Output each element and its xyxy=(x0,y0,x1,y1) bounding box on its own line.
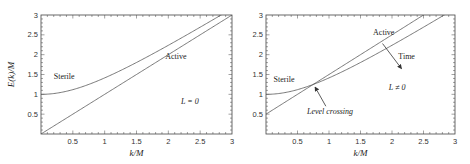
y-tick-label: 1.5 xyxy=(253,70,263,79)
x-tick-label: 2 xyxy=(390,137,394,146)
annotation-sterile: Sterile xyxy=(54,72,75,81)
y-tick-label: 0.5 xyxy=(28,110,38,119)
y-tick-label: 1.5 xyxy=(28,70,38,79)
x-tick-label: 3 xyxy=(453,137,457,146)
annotation-time: Time xyxy=(398,52,415,61)
x-tick-label: 2.5 xyxy=(195,137,205,146)
chart-figure: 0.511.522.530.511.522.53k/ME(k)/MSterile… xyxy=(0,0,470,164)
y-tick-label: 2.5 xyxy=(28,30,38,39)
y-tick-label: 1 xyxy=(259,90,263,99)
x-tick-label: 0.5 xyxy=(292,137,302,146)
level-crossing-arrow xyxy=(315,87,326,106)
series-line-sterile xyxy=(41,9,232,95)
x-tick-label: 1.5 xyxy=(355,137,365,146)
x-tick-label: 2.5 xyxy=(418,137,428,146)
y-tick-label: 2 xyxy=(34,50,38,59)
x-tick-label: 1 xyxy=(327,137,331,146)
annotation-active: Active xyxy=(373,28,395,37)
y-axis-label: E(k)/M xyxy=(6,61,16,88)
y-tick-label: 3 xyxy=(259,11,263,20)
x-tick-label: 1.5 xyxy=(131,137,141,146)
y-tick-label: 2 xyxy=(259,50,263,59)
x-tick-label: 0.5 xyxy=(68,137,78,146)
y-tick-label: 0.5 xyxy=(253,110,263,119)
x-tick-label: 2 xyxy=(166,137,170,146)
annotation-active: Active xyxy=(165,52,187,61)
left-panel-l-zero: 0.511.522.530.511.522.53k/ME(k)/MSterile… xyxy=(6,9,234,158)
y-tick-label: 3 xyxy=(34,11,38,20)
y-tick-label: 1 xyxy=(34,90,38,99)
y-tick-label: 2.5 xyxy=(253,30,263,39)
x-tick-label: 3 xyxy=(230,137,234,146)
x-axis-label: k/M xyxy=(354,148,368,158)
annotation-level-crossing: Level crossing xyxy=(306,107,353,116)
annotation-l-0: L ≠ 0 xyxy=(388,83,406,92)
x-tick-label: 1 xyxy=(103,137,107,146)
x-axis-label: k/M xyxy=(130,148,144,158)
annotation-l-0: L = 0 xyxy=(180,97,199,106)
annotation-sterile: Sterile xyxy=(274,75,295,84)
right-panel-l-nonzero: 0.511.522.530.511.522.53k/MSterileActive… xyxy=(253,0,458,158)
